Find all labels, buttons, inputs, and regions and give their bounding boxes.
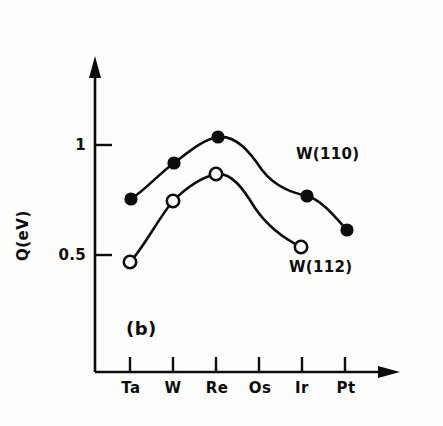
panel-label: (b) (126, 318, 157, 339)
data-point-w112-ta (124, 256, 136, 268)
y-axis (89, 56, 101, 372)
x-tick-label-ir: Ir (295, 379, 309, 397)
data-point-w110-ta (124, 192, 137, 205)
x-tick-label-os: Os (249, 379, 272, 397)
x-tick-label-ta: Ta (121, 379, 140, 397)
series-w112-line (130, 174, 301, 262)
data-point-w110-re (211, 130, 224, 143)
x-tick-label-pt: Pt (336, 379, 355, 397)
chart-canvas (0, 0, 443, 426)
data-point-w112-w (167, 195, 179, 207)
y-tick-marks (95, 145, 112, 255)
figure-panel-b: Q(eV) 1 0.5 Ta W Re Os Ir Pt W(110) W(11… (0, 0, 443, 426)
x-tick-marks (130, 357, 345, 372)
x-tick-label-re: Re (206, 379, 229, 397)
series-label-w112: W(112) (289, 258, 352, 276)
data-point-w110-ir (300, 189, 313, 202)
x-tick-label-w: W (164, 379, 181, 397)
x-axis (95, 366, 400, 378)
y-axis-title: Q(eV) (14, 210, 32, 261)
data-point-w110-pt (340, 223, 353, 236)
data-point-w112-re (210, 168, 222, 180)
y-tick-label-0-5: 0.5 (34, 246, 86, 264)
series-label-w110: W(110) (296, 145, 359, 163)
data-point-w112-ir (295, 241, 307, 253)
y-tick-label-1: 1 (42, 136, 86, 154)
data-point-w110-w (167, 156, 180, 169)
